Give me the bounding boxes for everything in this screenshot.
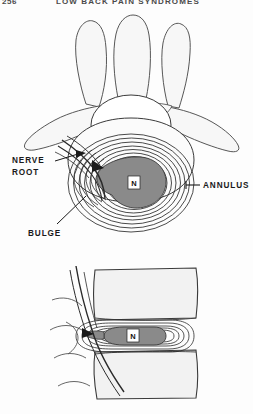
label-annulus-text: ANNULUS [203, 181, 249, 190]
sagittal-view: N [50, 266, 198, 399]
nucleus-label-axial: N [131, 179, 136, 188]
lower-vertebral-body [94, 350, 198, 399]
left-articular-process [76, 21, 107, 107]
axial-view: N NERVE ROOT ANNULUS [12, 15, 249, 238]
right-articular-process [162, 23, 190, 108]
upper-vertebral-body [94, 268, 198, 320]
label-nerve-root-line1: NERVE [12, 156, 45, 165]
label-nerve-root-line2: ROOT [12, 168, 39, 177]
label-annulus: ANNULUS [186, 181, 249, 190]
label-bulge-text: BULGE [28, 229, 61, 238]
figure-illustration: N NERVE ROOT ANNULUS [0, 0, 253, 414]
textbook-page: 256 LOW BACK PAIN SYNDROMES [0, 0, 253, 414]
nucleus-label-sagittal: N [130, 332, 135, 341]
spinous-process [114, 15, 151, 99]
label-bulge: BULGE [28, 196, 86, 238]
